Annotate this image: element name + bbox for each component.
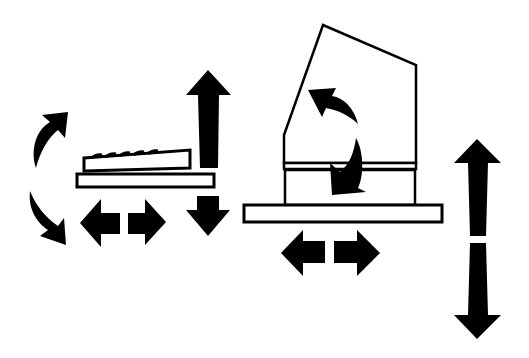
monitor-vertical-arrows [454,139,501,339]
curved-arrow-up-icon [34,112,68,168]
monitor-group [244,25,501,339]
keyboard-vertical-arrows [186,70,231,236]
keyboard-tray [77,174,214,187]
arrow-down-icon [454,243,501,339]
arrow-up-icon [454,139,501,236]
monitor-base-platform [244,205,442,222]
ergonomic-adjustment-diagram [0,0,529,358]
keyboard [84,150,190,171]
arrow-right-icon [334,230,380,276]
curved-arrow-down-icon [30,191,66,245]
arrow-down-icon [186,196,230,236]
monitor-horizontal-arrows [281,230,380,276]
arrow-up-icon [186,70,231,168]
arrow-right-icon [128,199,166,245]
monitor [284,25,416,163]
arrow-left-icon [80,199,120,247]
arrow-left-icon [281,230,325,276]
keyboard-group [30,70,231,247]
keyboard-horizontal-arrows [80,199,166,247]
